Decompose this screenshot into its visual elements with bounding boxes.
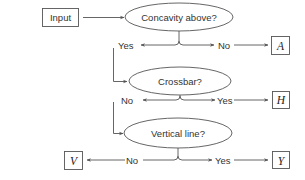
result-a-label: A — [276, 40, 285, 52]
q2-question: Crossbar? — [158, 76, 202, 87]
brace-q2 — [143, 95, 180, 100]
q2-yes-label: Yes — [217, 95, 233, 106]
q1-question: Concavity above? — [141, 12, 217, 23]
brace-q3 — [143, 148, 178, 160]
q1-yes-label: Yes — [118, 40, 134, 51]
q1-no-label: No — [218, 40, 230, 51]
brace-q1 — [141, 31, 179, 45]
q3-question: Vertical line? — [151, 128, 205, 139]
q2-no-label: No — [121, 95, 133, 106]
q3-yes-label: Yes — [215, 155, 231, 166]
input-label: Input — [50, 12, 71, 23]
decision-diagram: Input Concavity above? Yes No A Crossbar… — [0, 0, 305, 180]
result-h-label: H — [276, 94, 286, 106]
arrow-yes-to-q2 — [114, 48, 128, 82]
q3-no-label: No — [126, 155, 138, 166]
arrow-no-to-q3 — [114, 102, 124, 134]
